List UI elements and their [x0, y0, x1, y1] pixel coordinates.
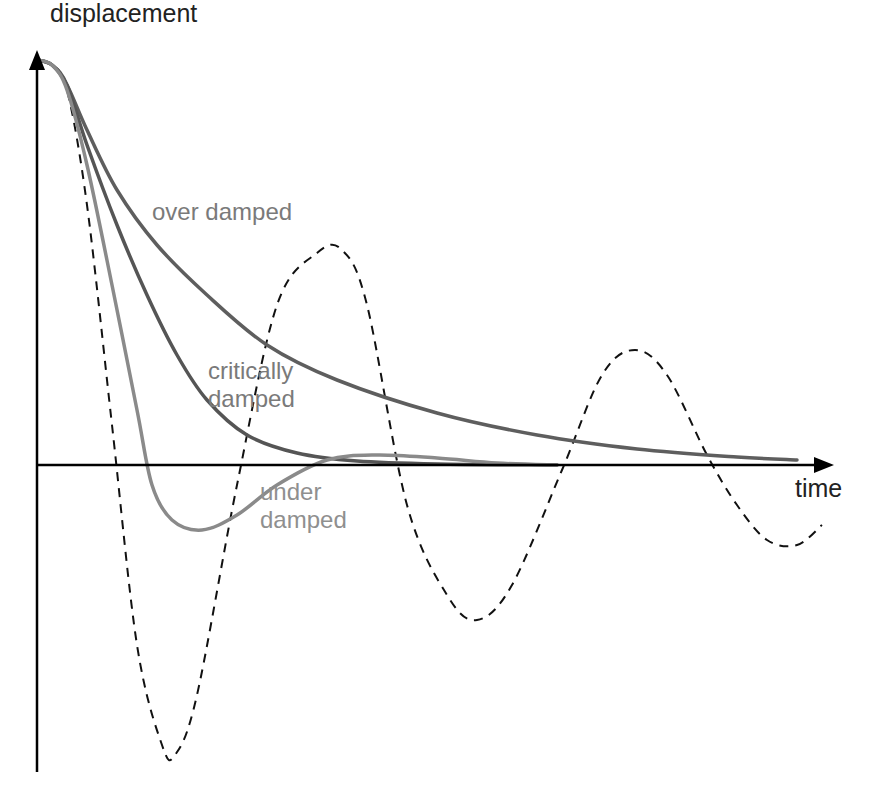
- over-damped-curve: [37, 60, 797, 460]
- under-damped-label-line1: under: [260, 478, 321, 505]
- critically-damped-label-line2: damped: [208, 385, 295, 412]
- y-axis-label: displacement: [50, 0, 197, 27]
- damping-diagram: displacement time over damped critically…: [0, 0, 878, 791]
- critically-damped-label-line1: critically: [208, 357, 293, 384]
- critically-damped-curve: [37, 60, 557, 465]
- under-damped-label-line2: damped: [260, 506, 347, 533]
- over-damped-label: over damped: [152, 198, 292, 225]
- x-axis-arrow-icon: [814, 457, 834, 473]
- curves: [37, 60, 822, 760]
- x-axis-label: time: [795, 474, 842, 502]
